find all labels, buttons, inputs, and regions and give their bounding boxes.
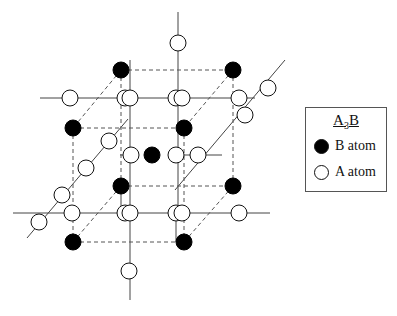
legend-box: A3B B atom A atom bbox=[305, 107, 387, 192]
legend-label-b-atom: B atom bbox=[335, 138, 376, 154]
a-atom-open-circle-icon bbox=[122, 90, 138, 106]
a-atom-open-circle-icon bbox=[122, 205, 138, 221]
b-atoms bbox=[65, 62, 241, 250]
open-circle-icon bbox=[314, 165, 329, 180]
b-atom-filled-circle-icon bbox=[225, 62, 241, 78]
b-atom-filled-circle-icon bbox=[176, 234, 192, 250]
legend-label-a-atom: A atom bbox=[335, 164, 376, 180]
a-atom-open-circle-icon bbox=[64, 205, 80, 221]
a-atom-open-circle-icon bbox=[54, 187, 70, 203]
b-atom-filled-circle-icon bbox=[225, 178, 241, 194]
legend-title-b: B bbox=[349, 112, 359, 128]
legend-title: A3B bbox=[306, 112, 386, 131]
b-atom-filled-circle-icon bbox=[176, 120, 192, 136]
b-atom-filled-circle-icon bbox=[65, 120, 81, 136]
a-atom-open-circle-icon bbox=[231, 205, 247, 221]
legend-item-a-atom: A atom bbox=[314, 164, 376, 180]
a-atom-open-circle-icon bbox=[123, 147, 139, 163]
a-atom-open-circle-icon bbox=[168, 147, 184, 163]
b-atom-filled-circle-icon bbox=[113, 178, 129, 194]
a-atom-open-circle-icon bbox=[231, 90, 247, 106]
legend-item-b-atom: B atom bbox=[314, 138, 376, 154]
a-atom-open-circle-icon bbox=[170, 35, 186, 51]
a-atom-open-circle-icon bbox=[101, 133, 117, 149]
a-atom-open-circle-icon bbox=[78, 160, 94, 176]
a-atom-open-circle-icon bbox=[174, 90, 190, 106]
a-atom-open-circle-icon bbox=[62, 90, 78, 106]
legend-title-a: A bbox=[333, 112, 344, 128]
b-atom-filled-circle-icon bbox=[144, 147, 160, 163]
b-atom-filled-circle-icon bbox=[65, 234, 81, 250]
b-atom-filled-circle-icon bbox=[113, 62, 129, 78]
a-atom-open-circle-icon bbox=[121, 263, 137, 279]
a-atom-open-circle-icon bbox=[31, 214, 47, 230]
a-atom-open-circle-icon bbox=[260, 80, 276, 96]
filled-circle-icon bbox=[314, 139, 329, 154]
a-atom-open-circle-icon bbox=[174, 205, 190, 221]
a-atom-open-circle-icon bbox=[237, 107, 253, 123]
a-atom-open-circle-icon bbox=[190, 147, 206, 163]
